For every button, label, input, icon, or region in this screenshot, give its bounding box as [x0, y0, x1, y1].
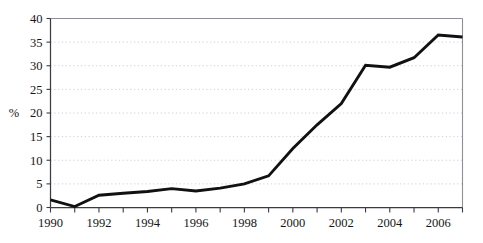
x-tick-label: 1994 — [135, 216, 161, 230]
x-tick-label: 2004 — [377, 216, 403, 230]
y-axis-title: % — [9, 106, 19, 120]
y-axis-title-text: % — [9, 106, 19, 120]
y-tick-label: 40 — [30, 12, 43, 26]
y-tick-label: 15 — [30, 130, 43, 144]
chart-canvas: 0510152025303540 19901992199419961998200… — [0, 0, 483, 243]
x-tick-label: 1992 — [86, 216, 111, 230]
x-tick-label: 2002 — [329, 216, 354, 230]
grid-lines — [51, 19, 463, 184]
series-polyline — [51, 35, 463, 207]
x-tick-label: 1998 — [232, 216, 257, 230]
y-tick-label: 30 — [30, 59, 43, 73]
x-tick-label: 1996 — [183, 216, 208, 230]
y-tick-label: 25 — [30, 83, 43, 97]
x-tick-label: 2006 — [426, 216, 451, 230]
y-axis-tick-labels: 0510152025303540 — [30, 12, 43, 215]
x-tick-label: 1990 — [38, 216, 63, 230]
y-tick-label: 0 — [36, 201, 42, 215]
y-tick-label: 5 — [36, 177, 42, 191]
x-axis-ticks — [51, 208, 463, 213]
data-series-line — [51, 35, 463, 207]
y-tick-label: 10 — [30, 154, 43, 168]
y-tick-label: 35 — [30, 36, 43, 50]
x-tick-label: 2000 — [280, 216, 305, 230]
y-tick-label: 20 — [30, 106, 43, 120]
x-axis-tick-labels: 199019921994199619982000200220042006 — [38, 216, 451, 230]
line-chart: 0510152025303540 19901992199419961998200… — [0, 0, 483, 243]
